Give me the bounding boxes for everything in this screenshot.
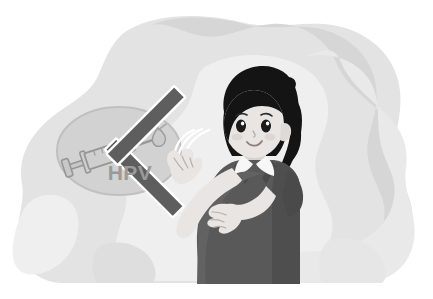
illustration-canvas: HPV vaccine not recommended during pregn…	[0, 0, 433, 299]
cheek-left	[232, 134, 243, 141]
eye-left-highlight	[241, 122, 244, 126]
eye-right-highlight	[266, 122, 269, 126]
hpv-label: HPV	[108, 161, 153, 184]
cheek-right	[265, 134, 276, 141]
hpv-pregnancy-illustration: HPV vaccine not recommended during pregn…	[0, 0, 433, 299]
eye-right	[261, 120, 271, 133]
eye-left	[236, 120, 246, 133]
hair-bun	[280, 77, 296, 91]
